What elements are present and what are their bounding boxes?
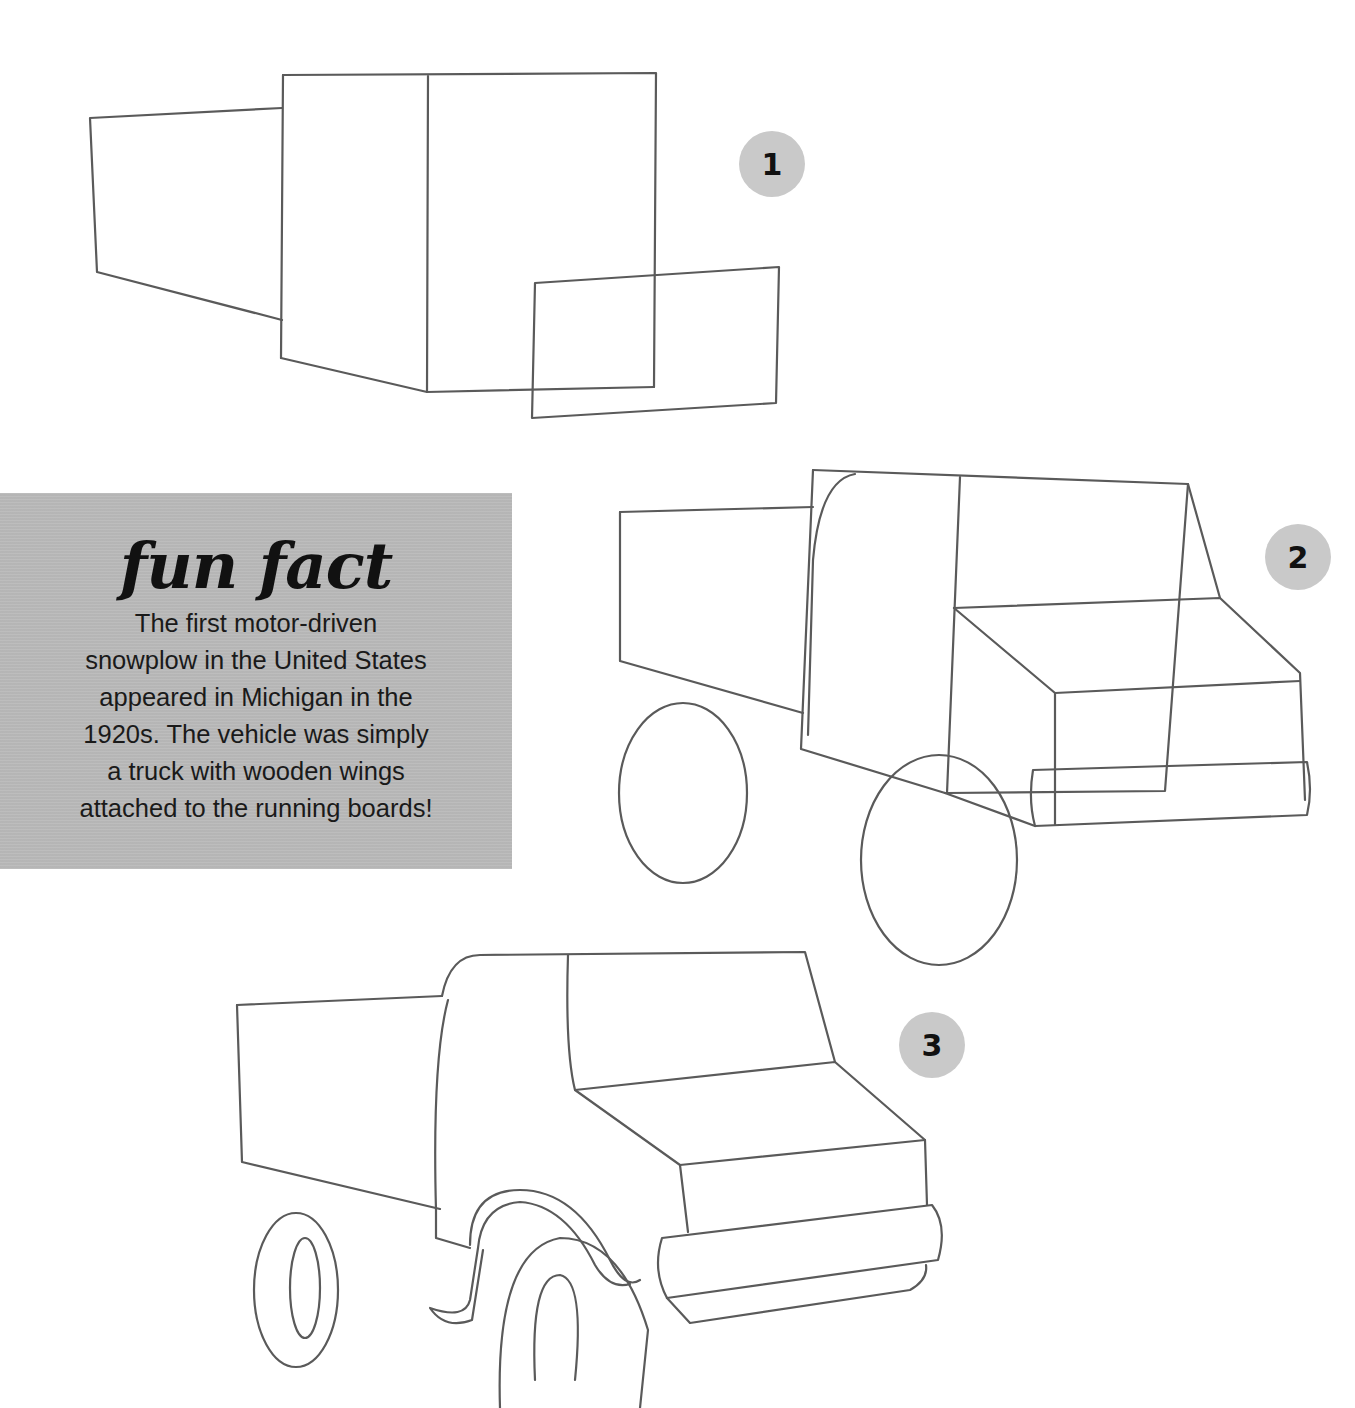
- step-1-number: 1: [762, 147, 783, 182]
- fun-fact-title: fun fact: [0, 531, 512, 601]
- fun-fact-line: The first motor-driven: [21, 605, 491, 642]
- step-3-badge: 3: [899, 1012, 965, 1078]
- step-1-sketch: [90, 73, 779, 418]
- fun-fact-body: The first motor-driven snowplow in the U…: [21, 605, 491, 827]
- step-2-badge: 2: [1265, 524, 1331, 590]
- fun-fact-line: appeared in Michigan in the: [21, 679, 491, 716]
- fun-fact-line: attached to the running boards!: [21, 790, 491, 827]
- step-3-sketch: [237, 952, 942, 1408]
- fun-fact-line: snowplow in the United States: [21, 642, 491, 679]
- fun-fact-line: a truck with wooden wings: [21, 753, 491, 790]
- step-2-number: 2: [1288, 540, 1309, 575]
- fun-fact-box: fun fact The first motor-driven snowplow…: [0, 493, 512, 869]
- step-2-sketch: [619, 470, 1310, 965]
- fun-fact-line: 1920s. The vehicle was simply: [21, 716, 491, 753]
- step-3-number: 3: [922, 1028, 943, 1063]
- step-1-badge: 1: [739, 131, 805, 197]
